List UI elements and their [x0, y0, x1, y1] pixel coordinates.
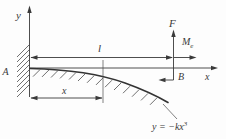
wall-hatching: [17, 45, 29, 97]
curve-equation-exponent: 3: [183, 120, 188, 128]
y-axis-label: y: [15, 9, 21, 21]
moment-right-arrow-icon: [190, 55, 197, 59]
beam-end-b-label: B: [178, 71, 184, 82]
force-arrow-icon: [171, 30, 175, 38]
beam-diagram-canvas: y x A l: [0, 0, 226, 139]
moment-label-sub: e: [190, 42, 193, 50]
distance-dim-right-arrow-icon: [96, 96, 103, 100]
y-axis-arrow-icon: [27, 6, 31, 14]
curve-equation-main: y = −kx: [151, 121, 184, 132]
force-label: F: [168, 17, 176, 29]
moment-left-arrow-icon: [159, 78, 166, 82]
beam-length-label: l: [98, 42, 101, 54]
length-dim-right-arrow-icon: [166, 55, 173, 59]
moment-label: Me: [181, 36, 193, 50]
support-a-label: A: [2, 66, 10, 77]
x-axis-label: x: [204, 71, 210, 82]
distance-dim-left-arrow-icon: [31, 96, 38, 100]
x-axis-arrow-icon: [211, 66, 218, 70]
equation-leader-line: [163, 104, 177, 119]
beam-deflection-figure: y x A l: [0, 0, 226, 139]
length-dim-left-arrow-icon: [31, 55, 38, 59]
distance-label: x: [61, 85, 67, 96]
curve-equation: y = −kx3: [151, 120, 188, 132]
